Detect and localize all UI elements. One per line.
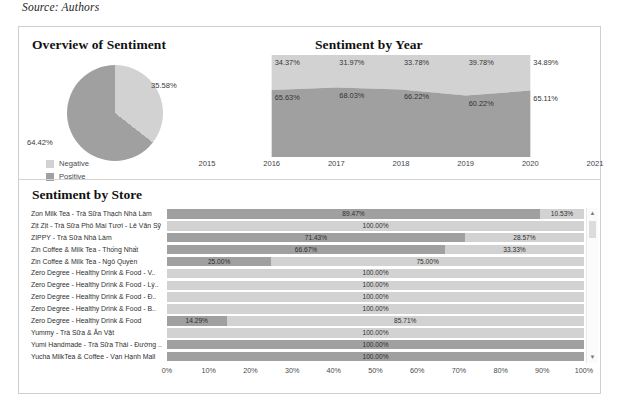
percent-tick-label: 30% — [285, 366, 299, 375]
bar-segment-label: 28.57% — [465, 234, 584, 242]
percent-tick-label: 0% — [162, 366, 172, 375]
year-tick-label: 2016 — [263, 159, 280, 168]
store-bar-track: 89.47%10.53% — [167, 209, 584, 218]
store-row[interactable]: ZIPPY - Trà Sữa Nhà Làm71.43%28.57% — [31, 232, 584, 244]
bar-segment-negative[interactable]: 100.00% — [167, 328, 584, 337]
bar-segment-label: 71.43% — [167, 234, 465, 242]
bar-segment-negative[interactable]: 75.00% — [271, 257, 584, 266]
area-label-negative: 39.78% — [469, 58, 494, 67]
store-name-label: Zero Degree - Healthy Drink & Food - Đ.. — [31, 291, 167, 303]
percent-axis: 0%10%20%30%40%50%60%70%80%90%100% — [167, 366, 584, 380]
year-tick-label: 2020 — [522, 159, 539, 168]
store-bar-track: 66.67%33.33% — [167, 245, 584, 254]
store-row[interactable]: Zin Coffee & Milk Tea - Ngô Quyền25.00%7… — [31, 256, 584, 268]
store-bar-track: 71.43%28.57% — [167, 233, 584, 242]
store-panel-title: Sentiment by Store — [32, 187, 142, 203]
store-row[interactable]: Zero Degree - Healthy Drink & Food - Lý.… — [31, 279, 584, 291]
store-bar-track: 100.00% — [167, 352, 584, 361]
store-name-label: Yummy - Trà Sữa & Ăn Vặt — [31, 327, 167, 339]
chevron-up-icon[interactable]: ▲ — [587, 208, 598, 219]
area-label-positive: 60.22% — [469, 99, 494, 108]
year-tick-label: 2017 — [328, 159, 345, 168]
bar-segment-positive[interactable]: 66.67% — [167, 245, 445, 254]
area-label-negative: 33.78% — [404, 58, 429, 67]
store-row[interactable]: Zero Degree - Healthy Drink & Food - Đ..… — [31, 291, 584, 303]
store-row[interactable]: Zero Degree - Healthy Drink & Food14.29%… — [31, 315, 584, 327]
percent-tick-label: 90% — [535, 366, 549, 375]
percent-tick-label: 40% — [327, 366, 341, 375]
area-label-negative: 34.89% — [533, 58, 558, 67]
area-label-negative: 34.37% — [275, 58, 300, 67]
year-tick-label: 2018 — [393, 159, 410, 168]
bar-segment-label: 66.67% — [167, 246, 445, 254]
sentiment-pie-chart — [67, 65, 163, 161]
pie-label-negative: 35.58% — [151, 81, 177, 90]
store-name-label: Zero Degree - Healthy Drink & Food - B.. — [31, 303, 167, 315]
area-plot: 34.37%65.63%31.97%68.03%33.78%66.22%39.7… — [207, 55, 595, 157]
percent-tick-label: 60% — [410, 366, 424, 375]
chevron-down-icon[interactable]: ▼ — [587, 352, 598, 363]
area-label-positive: 65.11% — [533, 94, 558, 103]
legend-item-negative[interactable]: Negative — [46, 158, 89, 169]
store-row[interactable]: Yummy - Trà Sữa & Ăn Vặt100.00% — [31, 327, 584, 339]
bar-segment-negative[interactable]: 100.00% — [167, 269, 584, 278]
bar-segment-negative[interactable]: 100.00% — [167, 292, 584, 301]
bar-segment-label: 100.00% — [167, 281, 584, 289]
bar-segment-negative[interactable]: 28.57% — [465, 233, 584, 242]
bar-segment-negative[interactable]: 100.00% — [167, 304, 584, 313]
store-bar-track: 100.00% — [167, 221, 584, 230]
store-row[interactable]: Zịt Zịt - Trà Sữa Phô Mai Tươi - Lê Văn … — [31, 220, 584, 232]
store-bar-track: 100.00% — [167, 292, 584, 301]
bar-segment-negative[interactable]: 85.71% — [227, 316, 584, 325]
bar-segment-label: 100.00% — [167, 293, 584, 301]
bar-segment-positive[interactable]: 71.43% — [167, 233, 465, 242]
store-bar-track: 100.00% — [167, 269, 584, 278]
bar-segment-positive[interactable]: 100.00% — [167, 340, 584, 349]
store-bar-track: 100.00% — [167, 281, 584, 290]
bar-segment-positive[interactable]: 25.00% — [167, 257, 271, 266]
store-name-label: Zero Degree - Healthy Drink & Food - V.. — [31, 267, 167, 279]
percent-tick-label: 80% — [493, 366, 507, 375]
bar-segment-negative[interactable]: 100.00% — [167, 221, 584, 230]
source-caption: Source: Authors — [22, 1, 99, 13]
store-name-label: Zin Coffee & Milk Tea - Thống Nhất — [31, 244, 167, 256]
store-bar-track: 14.29%85.71% — [167, 316, 584, 325]
bar-segment-positive[interactable]: 14.29% — [167, 316, 227, 325]
bar-segment-negative[interactable]: 100.00% — [167, 281, 584, 290]
dashboard-frame: Overview of Sentiment Sentiment by Year … — [18, 26, 601, 394]
store-scrollbar[interactable]: ▲ ▼ — [586, 208, 598, 363]
store-name-label: Zin Coffee & Milk Tea - Ngô Quyền — [31, 256, 167, 268]
bar-segment-label: 33.33% — [445, 246, 584, 254]
store-name-label: Zịt Zịt - Trà Sữa Phô Mai Tươi - Lê Văn … — [31, 220, 167, 232]
store-name-label: Yumi Handmade - Trà Sữa Thái - Đường .. — [31, 339, 167, 351]
store-row[interactable]: Yumi Handmade - Trà Sữa Thái - Đường ..1… — [31, 339, 584, 351]
store-bar-track: 25.00%75.00% — [167, 257, 584, 266]
sentiment-by-year-chart: 34.37%65.63%31.97%68.03%33.78%66.22%39.7… — [207, 55, 595, 179]
bar-segment-label: 100.00% — [167, 222, 584, 230]
area-label-negative: 31.97% — [339, 58, 364, 67]
bar-segment-label: 25.00% — [167, 258, 271, 266]
bar-segment-positive[interactable]: 89.47% — [167, 209, 540, 218]
store-name-label: Zero Degree - Healthy Drink & Food — [31, 315, 167, 327]
bar-segment-negative[interactable]: 33.33% — [445, 245, 584, 254]
store-row[interactable]: Zero Degree - Healthy Drink & Food - B..… — [31, 303, 584, 315]
percent-tick-label: 100% — [575, 366, 593, 375]
bar-segment-label: 100.00% — [167, 329, 584, 337]
bar-segment-negative[interactable]: 10.53% — [540, 209, 584, 218]
store-name-label: Zon Milk Tea - Trà Sữa Thạch Nhà Làm — [31, 208, 167, 220]
store-row[interactable]: Yucha MilkTea & Coffee - Vạn Hạnh Mall10… — [31, 351, 584, 363]
overview-panel-title: Overview of Sentiment — [32, 37, 166, 53]
legend-label-negative: Negative — [59, 159, 89, 168]
bar-segment-label: 89.47% — [167, 210, 540, 218]
bar-segment-positive[interactable]: 100.00% — [167, 352, 584, 361]
legend-swatch-negative — [46, 160, 54, 168]
store-row[interactable]: Zin Coffee & Milk Tea - Thống Nhất66.67%… — [31, 244, 584, 256]
pie-label-positive: 64.42% — [27, 138, 53, 147]
store-row-list: Zon Milk Tea - Trà Sữa Thạch Nhà Làm89.4… — [31, 208, 584, 363]
store-row[interactable]: Zero Degree - Healthy Drink & Food - V..… — [31, 267, 584, 279]
percent-tick-label: 50% — [368, 366, 382, 375]
scrollbar-thumb[interactable] — [589, 221, 596, 238]
store-bar-track: 100.00% — [167, 304, 584, 313]
percent-tick-label: 70% — [452, 366, 466, 375]
store-row[interactable]: Zon Milk Tea - Trà Sữa Thạch Nhà Làm89.4… — [31, 208, 584, 220]
